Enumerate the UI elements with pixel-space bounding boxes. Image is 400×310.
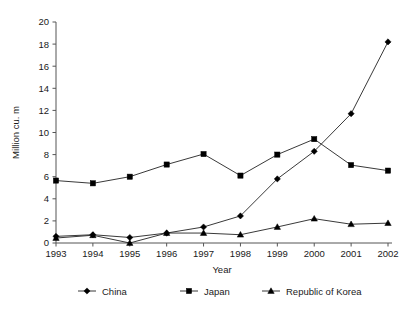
- y-tick-label: 2: [44, 215, 49, 226]
- series-republic-of-korea: [53, 215, 391, 245]
- legend-item-republic-of-korea[interactable]: Republic of Korea: [262, 286, 362, 297]
- x-tick-label: 1997: [193, 248, 214, 259]
- data-point: [312, 137, 317, 142]
- series-line: [56, 42, 388, 238]
- data-point: [164, 162, 169, 167]
- data-point: [385, 39, 391, 45]
- x-tick-group: 1993199419951996199719981999200020012002: [45, 243, 398, 259]
- x-tick-label: 1999: [267, 248, 288, 259]
- y-tick-label: 8: [44, 149, 49, 160]
- legend-marker-square-icon: [186, 288, 191, 293]
- x-tick-label: 1995: [119, 248, 140, 259]
- x-tick-label: 1993: [45, 248, 66, 259]
- data-point: [349, 162, 354, 167]
- chart-legend: ChinaJapanRepublic of Korea: [78, 286, 362, 297]
- y-tick-label: 6: [44, 171, 49, 182]
- chart-canvas: 02468101214161820 1993199419951996199719…: [0, 0, 400, 310]
- legend-marker-diamond-icon: [84, 288, 90, 294]
- y-tick-label: 4: [44, 193, 49, 204]
- y-tick-label: 18: [38, 39, 49, 50]
- y-tick-label: 10: [38, 127, 49, 138]
- legend-item-japan[interactable]: Japan: [180, 286, 230, 297]
- x-tick-label: 1998: [230, 248, 251, 259]
- series-line: [56, 139, 388, 183]
- series-china: [53, 39, 391, 241]
- y-axis-title: Million cu. m: [10, 106, 21, 159]
- data-point: [275, 152, 280, 157]
- y-tick-label: 12: [38, 105, 49, 116]
- data-point: [201, 151, 206, 156]
- y-axis: 02468101214161820: [38, 16, 56, 248]
- data-point: [385, 168, 390, 173]
- x-tick-label: 2002: [377, 248, 398, 259]
- line-chart: 02468101214161820 1993199419951996199719…: [0, 0, 400, 310]
- data-point: [127, 174, 132, 179]
- legend-item-china[interactable]: China: [78, 286, 128, 297]
- series-line: [56, 219, 388, 243]
- y-tick-label: 16: [38, 61, 49, 72]
- series-japan: [53, 137, 390, 186]
- data-point: [238, 173, 243, 178]
- y-tick-label: 20: [38, 16, 49, 27]
- y-tick-group: 02468101214161820: [38, 16, 56, 248]
- legend-label: Republic of Korea: [286, 286, 362, 297]
- y-tick-label: 14: [38, 83, 49, 94]
- x-tick-label: 2000: [304, 248, 325, 259]
- x-tick-label: 1994: [82, 248, 103, 259]
- series-layer: [53, 39, 391, 246]
- legend-label: China: [102, 286, 128, 297]
- data-point: [200, 224, 206, 230]
- x-tick-label: 1996: [156, 248, 177, 259]
- data-point: [53, 178, 58, 183]
- x-axis: 1993199419951996199719981999200020012002: [45, 243, 398, 259]
- data-point: [385, 220, 391, 226]
- data-point: [90, 181, 95, 186]
- x-axis-title: Year: [212, 264, 231, 275]
- x-tick-label: 2001: [341, 248, 362, 259]
- data-point: [311, 215, 317, 221]
- legend-label: Japan: [204, 286, 230, 297]
- y-tick-label: 0: [44, 237, 49, 248]
